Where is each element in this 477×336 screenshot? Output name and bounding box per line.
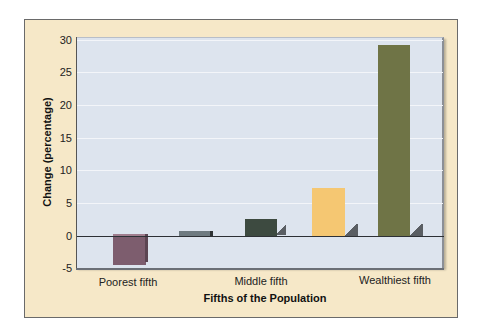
gridline-30 [77, 40, 443, 41]
bar-poorest-fifth [113, 234, 146, 265]
y-axis-line [76, 37, 77, 269]
bar-wealthiest-fifth [378, 45, 410, 236]
bar-wealthiest-shadow [410, 224, 423, 236]
y-tick: 25 [44, 66, 72, 78]
x-axis-bottom-line [76, 268, 444, 270]
y-tick: -5 [44, 262, 72, 274]
bar-fourth-shadow [345, 224, 358, 236]
x-label-poorest: Poorest fifth [88, 276, 168, 288]
bar-middle-fifth [245, 219, 277, 236]
x-axis-title: Fifths of the Population [150, 292, 380, 304]
bar-middle-shadow [277, 225, 286, 235]
bar-poorest-side [145, 234, 148, 262]
y-tick: 0 [44, 230, 72, 242]
x-label-middle: Middle fifth [221, 275, 301, 287]
bar-fourth-fifth [312, 188, 345, 236]
y-axis-title: Change (percentage) [41, 82, 53, 222]
x-label-wealthiest: Wealthiest fifth [348, 274, 442, 286]
y-tick: 30 [44, 34, 72, 46]
zero-baseline [77, 236, 444, 237]
